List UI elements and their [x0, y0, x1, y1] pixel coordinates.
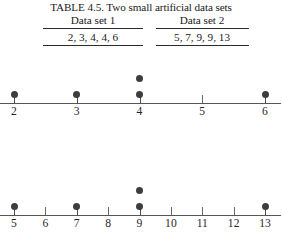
axis-tick-label: 12	[221, 217, 247, 230]
axis-tick	[234, 207, 235, 215]
column-header-data-set-1: Data set 1	[36, 14, 150, 27]
data-point-dot	[11, 203, 18, 210]
data-point-dot	[262, 91, 269, 98]
table-caption: TABLE 4.5. Two small artificial data set…	[0, 1, 282, 14]
table-column-2: Data set 2 5, 7, 9, 9, 13	[150, 14, 254, 46]
axis-tick-label: 2	[1, 105, 27, 118]
column-values-rule	[43, 45, 143, 46]
axis-tick-label: 5	[189, 105, 215, 118]
axis-tick-label: 13	[252, 217, 278, 230]
axis-tick-label: 3	[64, 105, 90, 118]
column-values-data-set-1: 2, 3, 4, 4, 6	[36, 29, 150, 44]
axis-tick	[45, 207, 46, 215]
axis-tick-label: 6	[252, 105, 278, 118]
column-values-rule	[156, 45, 249, 46]
column-values-data-set-2: 5, 7, 9, 9, 13	[150, 29, 254, 44]
dotplot-data-set-2: 5678910111213	[0, 170, 282, 232]
axis-tick-label: 5	[1, 217, 27, 230]
data-point-dot	[262, 203, 269, 210]
axis-tick	[202, 207, 203, 215]
data-point-dot	[136, 187, 143, 194]
dotplot-data-set-1: 23456	[0, 58, 282, 118]
data-point-dot	[11, 91, 18, 98]
axis-line	[0, 215, 281, 216]
axis-tick	[108, 207, 109, 215]
data-point-dot	[136, 91, 143, 98]
axis-tick-label: 11	[189, 217, 215, 230]
data-point-dot	[136, 75, 143, 82]
data-point-dot	[73, 203, 80, 210]
axis-tick-label: 10	[158, 217, 184, 230]
axis-tick-label: 9	[127, 217, 153, 230]
data-point-dot	[73, 91, 80, 98]
data-point-dot	[136, 203, 143, 210]
axis-tick	[171, 207, 172, 215]
column-header-data-set-2: Data set 2	[150, 14, 254, 27]
table-column-1: Data set 1 2, 3, 4, 4, 6	[36, 14, 150, 46]
axis-tick	[202, 95, 203, 103]
axis-tick-label: 6	[32, 217, 58, 230]
axis-line	[0, 103, 281, 104]
axis-tick-label: 8	[95, 217, 121, 230]
axis-tick-label: 4	[127, 105, 153, 118]
axis-tick-label: 7	[64, 217, 90, 230]
